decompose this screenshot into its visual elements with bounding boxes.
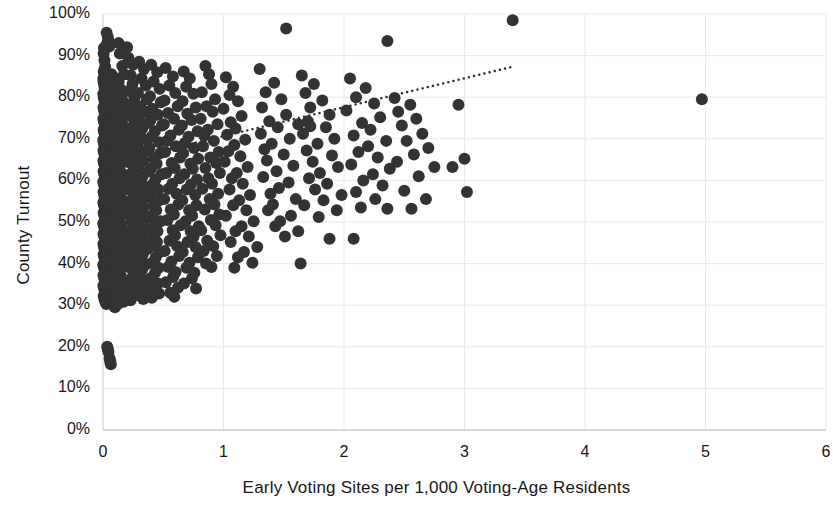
data-point [413,170,425,182]
data-point [220,71,232,83]
data-point [177,95,189,107]
data-point [328,133,340,145]
data-point [195,224,207,236]
plot-area [0,0,833,511]
data-point [313,211,325,223]
data-point [244,189,256,201]
data-point [234,150,246,162]
data-point [389,92,401,104]
data-point [145,163,157,175]
data-point [292,225,304,237]
data-points [97,14,708,370]
data-point [368,97,380,109]
x-axis-title: Early Voting Sites per 1,000 Voting-Age … [0,478,833,498]
data-point [344,72,356,84]
data-point [303,172,315,184]
data-point [326,149,338,161]
data-point [177,147,189,159]
data-point [420,193,432,205]
data-point [258,143,270,155]
data-point [178,278,190,290]
data-point [357,174,369,186]
data-point [218,103,230,115]
data-point [168,291,180,303]
data-point [391,156,403,168]
data-point [176,194,188,206]
data-point [374,111,386,123]
data-point [446,161,458,173]
data-point [271,165,283,177]
data-point [158,118,170,130]
x-axis-tick-label: 1 [204,443,244,461]
data-point [410,113,422,125]
data-point [226,172,238,184]
data-point [251,241,263,253]
data-point [284,133,296,145]
y-axis-title: County Turnout [14,105,34,345]
data-point [178,168,190,180]
data-point [145,114,157,126]
data-point [404,99,416,111]
data-point [332,161,344,173]
data-point [318,194,330,206]
scatter-chart: 0%10%20%30%40%50%60%70%80%90%100% 012345… [0,0,833,511]
data-point [199,204,211,216]
data-point [255,128,267,140]
data-point [214,229,226,241]
data-point [408,149,420,161]
y-axis-tick-label: 60% [28,170,90,188]
data-point [295,258,307,270]
y-axis-tick-label: 80% [28,87,90,105]
data-point [380,135,392,147]
x-axis-tick-label: 3 [445,443,485,461]
data-point [256,102,268,114]
data-point [350,91,362,103]
data-point [331,204,343,216]
data-point [220,210,232,222]
x-axis-tick-label: 0 [83,443,123,461]
data-point [242,161,254,173]
data-point [177,246,189,258]
y-axis-tick-label: 0% [28,420,90,438]
y-axis-tick-label: 90% [28,46,90,64]
data-point [285,210,297,222]
data-point [198,245,210,257]
data-point [279,231,291,243]
data-point [350,186,362,198]
x-axis-tick-label: 6 [806,443,833,461]
data-point [369,193,381,205]
data-point [161,214,173,226]
data-point [160,167,172,179]
data-point [324,109,336,121]
data-point [275,93,287,105]
data-point [195,113,207,125]
data-point [292,118,304,130]
data-point [459,153,471,165]
data-point [246,257,258,269]
data-point [176,119,188,131]
data-point [158,95,170,107]
data-point [392,106,404,118]
data-point [324,233,336,245]
data-point [360,82,372,94]
data-point [416,128,428,140]
data-point [298,199,310,211]
x-axis-tick-label: 5 [686,443,726,461]
data-point [214,167,226,179]
data-point [254,63,266,75]
data-point [268,77,280,89]
data-point [314,167,326,179]
data-point [287,160,299,172]
data-point [262,204,274,216]
data-point [422,142,434,154]
y-axis-tick-label: 70% [28,129,90,147]
data-point [237,178,249,190]
data-point [320,121,332,133]
data-point [260,86,272,98]
data-point [301,144,313,156]
data-point [222,145,234,157]
data-point [372,152,384,164]
data-point [280,109,292,121]
data-point [381,203,393,215]
data-point [243,231,255,243]
